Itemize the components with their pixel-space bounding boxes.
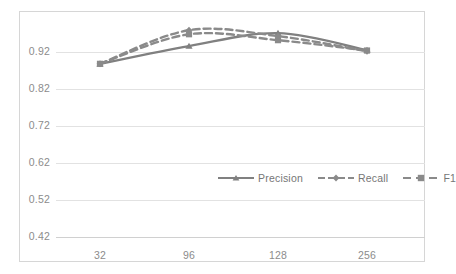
legend-swatch-precision-icon: [218, 173, 254, 183]
chart-legend: Precision Recall F1: [218, 170, 456, 186]
legend-label-f1: F1: [443, 172, 456, 184]
x-tick-label-0: 32: [70, 250, 130, 261]
x-tick-label-3: 256: [337, 250, 397, 261]
legend-label-precision: Precision: [258, 172, 303, 184]
gridline-0-82: [56, 89, 425, 90]
x-tick-label-2: 128: [248, 250, 308, 261]
legend-swatch-recall-icon: [318, 173, 354, 183]
gridline-0-92: [56, 52, 425, 53]
y-tick-label-5: 0.42: [8, 231, 50, 242]
legend-label-recall: Recall: [358, 172, 388, 184]
gridline-0-62: [56, 163, 425, 164]
legend-item-recall[interactable]: Recall: [318, 172, 388, 184]
y-tick-label-0: 0.92: [8, 46, 50, 57]
x-tick-label-1: 96: [159, 250, 219, 261]
y-tick-label-2: 0.72: [8, 120, 50, 131]
legend-swatch-f1-icon: [403, 173, 439, 183]
chart-frame: [19, 11, 425, 262]
y-tick-label-1: 0.82: [8, 83, 50, 94]
y-tick-label-3: 0.62: [8, 157, 50, 168]
gridline-0-72: [56, 126, 425, 127]
legend-item-precision[interactable]: Precision: [218, 172, 303, 184]
axis-line-x: [56, 237, 425, 238]
legend-item-f1[interactable]: F1: [403, 172, 456, 184]
y-tick-label-4: 0.52: [8, 194, 50, 205]
gridline-0-52: [56, 200, 425, 201]
